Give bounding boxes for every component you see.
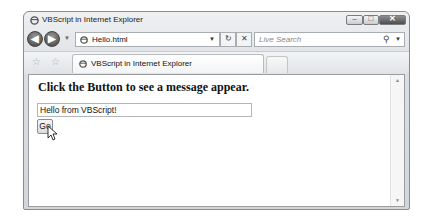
search-box[interactable]: Live Search ⚲ ▼ [254,32,405,47]
ie-logo-icon [30,16,39,25]
minimize-icon: – [347,14,362,23]
address-dropdown-icon[interactable]: ▼ [209,36,215,42]
navigation-bar: ◀ ▶ ▼ Hello.html ▼ ↻ ✕ Live Search ⚲ ▼ [24,29,409,51]
stop-icon: ✕ [237,34,251,43]
tab-active[interactable]: VBScript in Internet Explorer [72,54,264,73]
scroll-up-icon[interactable]: ▲ [391,77,404,83]
history-dropdown-icon[interactable]: ▼ [64,35,70,41]
stop-button[interactable]: ✕ [236,32,252,47]
browser-window: VBScript in Internet Explorer – □ ✕ ◀ ▶ … [23,11,410,210]
refresh-icon: ↻ [221,34,235,43]
close-button[interactable]: ✕ [379,15,406,25]
message-textbox[interactable]: Hello from VBScript! [37,103,252,117]
page-content: Click the Button to see a message appear… [28,74,405,207]
new-tab-button[interactable] [266,56,288,73]
forward-button[interactable]: ▶ [44,31,60,47]
back-button[interactable]: ◀ [27,31,43,47]
tab-label: VBScript in Internet Explorer [91,59,192,68]
page-icon [80,36,88,44]
search-input[interactable]: Live Search [259,35,301,44]
add-favorites-icon[interactable]: ☆ [51,56,60,67]
address-bar[interactable]: Hello.html ▼ [75,32,220,47]
close-icon: ✕ [380,14,405,23]
search-icon[interactable]: ⚲ [383,34,390,44]
forward-arrow-icon: ▶ [45,33,59,45]
maximize-icon: □ [364,14,378,23]
page-heading: Click the Button to see a message appear… [38,80,249,95]
back-arrow-icon: ◀ [28,33,42,45]
window-title: VBScript in Internet Explorer [42,15,143,24]
refresh-button[interactable]: ↻ [220,32,236,47]
vertical-scrollbar[interactable]: ▲ ▼ [390,75,404,206]
favorites-center-icon[interactable]: ☆ [32,56,41,67]
title-bar[interactable]: VBScript in Internet Explorer – □ ✕ [24,12,409,29]
address-text: Hello.html [92,35,128,44]
maximize-button[interactable]: □ [363,15,379,25]
search-dropdown-icon[interactable]: ▼ [395,36,401,42]
page-icon [79,60,87,68]
minimize-button[interactable]: – [346,15,363,25]
tab-bar: ☆ ☆ VBScript in Internet Explorer [24,51,409,74]
scroll-down-icon[interactable]: ▼ [391,197,404,203]
mouse-cursor-icon [47,125,59,141]
